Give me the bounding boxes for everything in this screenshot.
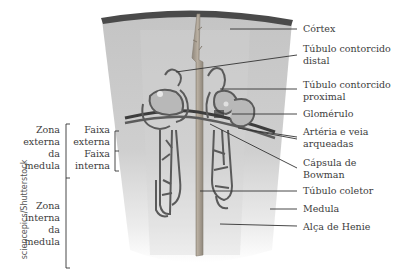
label-capsula-bowman: Cápsula de Bowman xyxy=(303,157,356,181)
label-arteria-veia: Artéria e veia arqueadas xyxy=(303,126,368,150)
label-tubulo-proximal: Túbulo contorcido proximal xyxy=(303,79,391,103)
label-glomerulo: Glomérulo xyxy=(303,108,353,120)
image-credit: sciencepics/Shutterstock xyxy=(20,150,29,270)
label-tubulo-distal: Túbulo contorcido distal xyxy=(303,43,391,67)
label-faixa-externa: Faixa externa xyxy=(70,124,110,148)
label-medula: Medula xyxy=(303,203,339,215)
label-alca-henle: Alça de Henie xyxy=(303,221,370,233)
label-cortex: Córtex xyxy=(303,23,335,35)
label-tubulo-coletor: Túbulo coletor xyxy=(303,185,373,197)
label-faixas: Faixa externa Faixa interna xyxy=(70,124,110,172)
kidney-nephron-diagram: Córtex Túbulo contorcido distal Túbulo c… xyxy=(0,0,399,277)
label-faixa-interna: Faixa interna xyxy=(70,148,110,172)
